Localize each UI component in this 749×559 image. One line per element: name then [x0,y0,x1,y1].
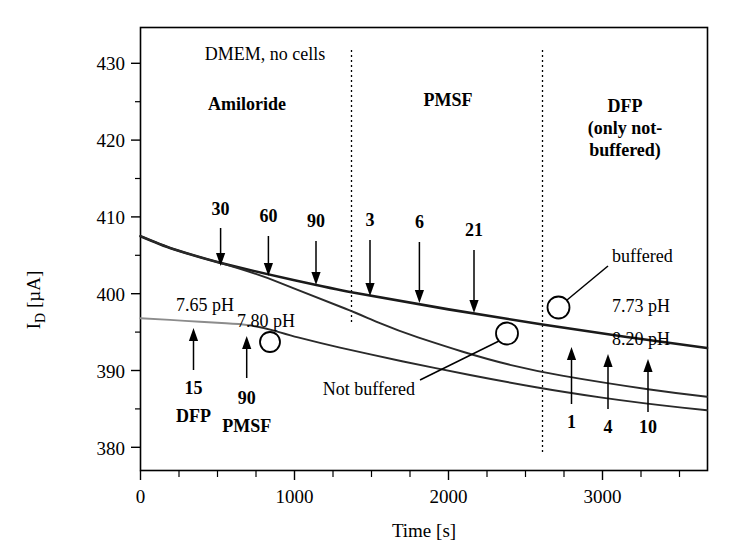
not-buffered-marker-circle [496,323,518,345]
y-axis-title-unit: [µA] [23,271,44,313]
x-tick-label-3000: 3000 [584,486,622,507]
buffered-leader-line [567,266,608,300]
svg-text:ID [µA]: ID [µA] [23,271,48,330]
arrow-up-4-label: 4 [604,417,613,437]
arrow-down-3: 3 [365,210,374,296]
x-tick-label-0: 0 [136,486,146,507]
y-tick-label-420: 420 [97,130,126,151]
region-label-pmsf: PMSF [424,90,473,110]
callout-not-buffered: Not buffered [323,323,518,400]
arrow-up-90-pmsf: 90 PMSF [222,336,271,436]
arrow-down-6-label: 6 [415,212,424,232]
inline-label-ph-773: 7.73 pH [612,296,670,316]
arrow-up-15-dfp: 15 DFP [176,328,211,426]
arrow-down-60: 60 [259,206,277,276]
x-tick-label-1000: 1000 [276,486,314,507]
y-tick-label-380: 380 [97,438,126,459]
inline-label-ph-780: 7.80 pH [237,311,295,331]
y-tick-label-410: 410 [97,207,126,228]
figure-container: 430 420 410 400 390 380 ID [µA] 0 1000 2… [0,0,749,559]
x-axis-title: Time [s] [392,520,456,541]
y-axis-title-sub: D [33,313,48,323]
region-label-dfp: DFP (only not- buffered) [588,96,663,161]
x-axis: 0 1000 2000 3000 [136,471,680,508]
chart-svg: 430 420 410 400 390 380 ID [µA] 0 1000 2… [0,0,749,559]
y-tick-label-390: 390 [97,361,126,382]
arrow-down-90: 90 [307,211,325,285]
region-label-amiloride: Amiloride [208,94,286,114]
arrow-down-90-label: 90 [307,211,325,231]
callout-not-buffered-label: Not buffered [323,379,415,399]
arrow-down-21: 21 [465,220,483,313]
x-tick-label-2000: 2000 [430,486,468,507]
region-label-dfp-line3: buffered) [589,140,661,161]
ph-780-marker-circle [260,332,280,352]
arrow-down-3-label: 3 [366,210,375,230]
arrow-down-21-label: 21 [465,220,483,240]
inline-label-ph-820: 8.20 pH [612,329,670,349]
arrow-up-1: 1 [567,347,576,432]
region-label-dfp-line2: (only not- [588,118,663,139]
arrow-up-4: 4 [603,354,612,437]
arrow-down-6: 6 [415,212,424,303]
arrow-group-up-right: 1 4 10 [567,347,657,437]
y-tick-label-400: 400 [97,284,126,305]
arrow-up-10: 10 [639,359,657,437]
region-label-dfp-line1: DFP [608,96,643,116]
arrow-up-90-label: 90 [238,388,256,408]
buffered-marker-circle [548,297,570,319]
not-buffered-leader-line [420,341,499,380]
y-tick-label-430: 430 [97,53,126,74]
arrow-group-up-left: 15 DFP 90 PMSF [176,328,271,436]
arrow-up-pmsf-label: PMSF [222,416,271,436]
arrow-up-dfp-label: DFP [176,406,211,426]
arrow-up-15-label: 15 [185,378,203,398]
arrow-up-10-label: 10 [639,417,657,437]
arrow-group-down: 30 60 90 3 6 21 [212,199,483,313]
annotation-dmem-no-cells: DMEM, no cells [205,44,326,64]
arrow-up-1-label: 1 [567,412,576,432]
arrow-down-30: 30 [212,199,230,266]
inline-label-ph-765: 7.65 pH [176,295,234,315]
arrow-down-30-label: 30 [212,199,230,219]
callout-buffered-label: buffered [612,246,673,266]
y-axis-title: ID [µA] [23,271,48,330]
y-axis: 430 420 410 400 390 380 [97,53,141,459]
arrow-down-60-label: 60 [259,206,277,226]
